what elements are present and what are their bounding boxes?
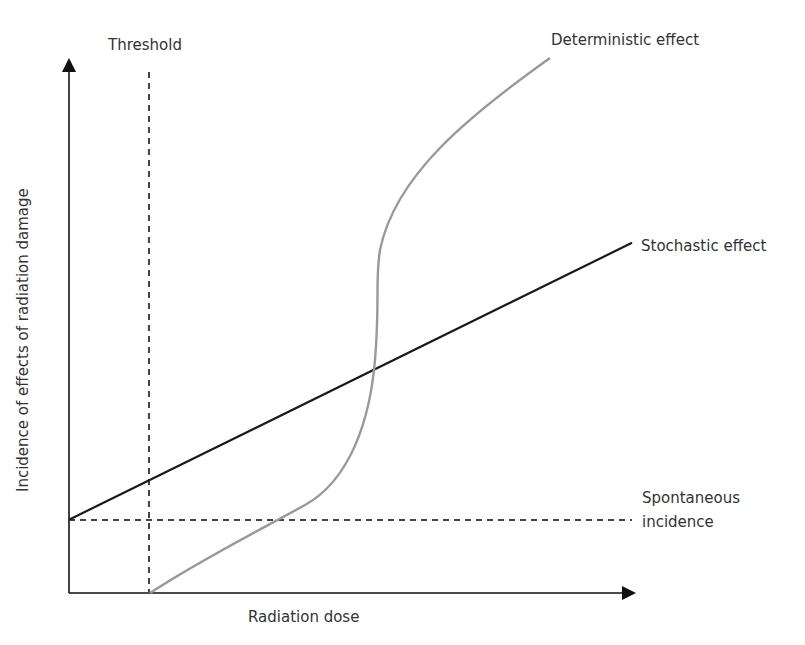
stochastic-effect-line xyxy=(69,243,632,520)
deterministic-effect-label: Deterministic effect xyxy=(551,31,699,49)
spontaneous-incidence-label-line2: incidence xyxy=(642,513,714,531)
spontaneous-incidence-label-line1: Spontaneous xyxy=(642,489,740,507)
y-axis-label: Incidence of effects of radiation damage xyxy=(14,188,32,492)
stochastic-effect-label: Stochastic effect xyxy=(641,237,766,255)
dose-response-diagram: Threshold Deterministic effect Stochasti… xyxy=(0,0,805,645)
deterministic-effect-curve xyxy=(150,58,550,593)
threshold-label: Threshold xyxy=(107,36,182,54)
x-axis-label: Radiation dose xyxy=(248,608,359,626)
x-axis-arrow-icon xyxy=(622,586,636,600)
y-axis-arrow-icon xyxy=(62,58,76,72)
